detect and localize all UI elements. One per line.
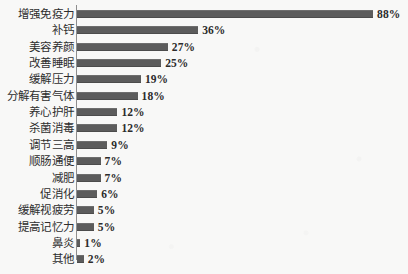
bar-row: 分解有害气体18%	[0, 88, 408, 104]
bar-value-label: 18%	[142, 90, 165, 102]
bar-value-label: 12%	[121, 106, 144, 118]
category-label: 调节三高	[29, 139, 74, 151]
plot-area: 增强免疫力88%补钙36%美容养颜27%改善睡眠25%缓解压力19%分解有害气体…	[0, 0, 408, 274]
category-label: 杀菌消毒	[29, 122, 74, 134]
bar	[77, 10, 373, 18]
bar-value-label: 27%	[172, 41, 195, 53]
bar	[77, 239, 80, 247]
bar-value-label: 88%	[377, 8, 400, 20]
bar-row: 杀菌消毒12%	[0, 120, 408, 136]
bar	[77, 206, 94, 214]
bar-value-label: 2%	[88, 253, 105, 265]
category-label: 鼻炎	[52, 237, 74, 249]
bar-value-label: 12%	[121, 122, 144, 134]
bar	[77, 141, 107, 149]
category-label: 分解有害气体	[7, 90, 74, 102]
bar-value-label: 36%	[202, 24, 225, 36]
category-label: 促消化	[40, 188, 74, 200]
bar-value-label: 7%	[105, 155, 122, 167]
category-label: 缓解压力	[29, 73, 74, 85]
bar-row: 其他2%	[0, 251, 408, 267]
bar	[77, 59, 161, 67]
bar	[77, 124, 117, 132]
bar-value-label: 9%	[111, 139, 128, 151]
bar-row: 鼻炎1%	[0, 235, 408, 251]
bar-row: 补钙36%	[0, 22, 408, 38]
bar-value-label: 6%	[101, 188, 118, 200]
bar	[77, 75, 141, 83]
category-label: 美容养颜	[29, 41, 74, 53]
category-label: 养心护肝	[29, 106, 74, 118]
category-label: 缓解视疲劳	[18, 204, 74, 216]
bar-row: 缓解压力19%	[0, 71, 408, 87]
bar-value-label: 25%	[165, 57, 188, 69]
bar-value-label: 5%	[98, 221, 115, 233]
category-label: 减肥	[52, 172, 74, 184]
bar-row: 美容养颜27%	[0, 39, 408, 55]
bar	[77, 190, 97, 198]
bar	[77, 223, 94, 231]
bar-row: 增强免疫力88%	[0, 6, 408, 22]
bar-value-label: 1%	[84, 237, 101, 249]
bar	[77, 26, 198, 34]
bar-row: 调节三高9%	[0, 137, 408, 153]
bar-value-label: 19%	[145, 73, 168, 85]
bar	[77, 157, 101, 165]
bar-value-label: 7%	[105, 172, 122, 184]
bar	[77, 255, 84, 263]
category-label: 改善睡眠	[29, 57, 74, 69]
category-label: 增强免疫力	[18, 8, 74, 20]
bar-row: 缓解视疲劳5%	[0, 202, 408, 218]
category-label: 顺肠通便	[29, 155, 74, 167]
bar-chart: 增强免疫力88%补钙36%美容养颜27%改善睡眠25%缓解压力19%分解有害气体…	[0, 0, 408, 274]
bar	[77, 92, 138, 100]
bar-value-label: 5%	[98, 204, 115, 216]
bar-row: 养心护肝12%	[0, 104, 408, 120]
category-label: 提高记忆力	[18, 221, 74, 233]
bar	[77, 174, 101, 182]
bar-row: 顺肠通便7%	[0, 153, 408, 169]
bar-row: 促消化6%	[0, 186, 408, 202]
bar-row: 减肥7%	[0, 170, 408, 186]
category-label: 其他	[52, 253, 74, 265]
category-label: 补钙	[52, 24, 74, 36]
bar-row: 改善睡眠25%	[0, 55, 408, 71]
bar	[77, 43, 168, 51]
bar-row: 提高记忆力5%	[0, 219, 408, 235]
bar	[77, 108, 117, 116]
